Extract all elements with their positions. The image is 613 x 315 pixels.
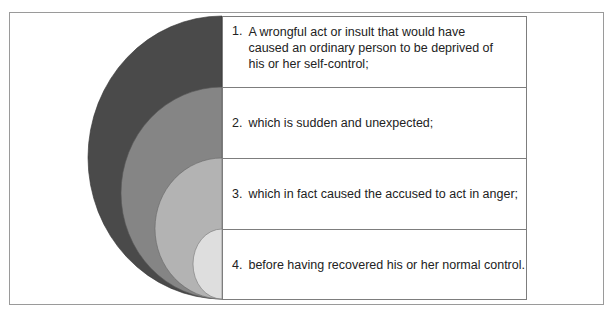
criterion-text: which in fact caused the accused to act … <box>248 186 518 202</box>
criterion-row-3: 3. which in fact caused the accused to a… <box>223 159 526 230</box>
criterion-row-2: 2. which is sudden and unexpected; <box>223 88 526 159</box>
criterion-number: 3. <box>232 187 242 201</box>
criterion-row-1: 1. A wrongful act or insult that would h… <box>223 17 526 88</box>
criterion-row-4: 4. before having recovered his or her no… <box>223 230 526 299</box>
criterion-text: which is sudden and unexpected; <box>248 115 433 131</box>
criterion-number: 4. <box>232 258 242 272</box>
criteria-table: 1. A wrongful act or insult that would h… <box>222 16 527 300</box>
criterion-text: A wrongful act or insult that would have… <box>248 24 498 72</box>
criterion-number: 2. <box>232 116 242 130</box>
criterion-number: 1. <box>232 24 242 72</box>
criterion-text: before having recovered his or her norma… <box>248 257 525 273</box>
